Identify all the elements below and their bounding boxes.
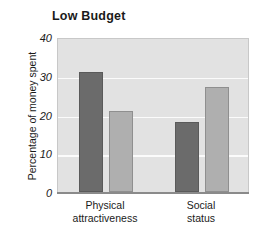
chart-title: Low Budget [52, 9, 126, 23]
y-axis-tick-labels: 010203040 [18, 0, 52, 252]
category-label-line: Social [146, 199, 256, 212]
category-label-line: attractiveness [50, 212, 160, 225]
plot-area [57, 38, 249, 193]
bar-dark-1 [175, 122, 199, 192]
bar-dark-0 [79, 72, 103, 192]
category-label-line: Physical [50, 199, 160, 212]
chart-figure: Low Budget Percentage of money spent 010… [0, 0, 271, 252]
category-label-1: Socialstatus [146, 199, 256, 224]
x-axis-line [57, 192, 249, 194]
bar-light-1 [205, 87, 229, 192]
bar-light-0 [109, 111, 133, 192]
category-label-line: status [146, 212, 256, 225]
y-tick-label: 10 [22, 148, 52, 160]
category-label-0: Physicalattractiveness [50, 199, 160, 224]
y-tick-label: 30 [22, 71, 52, 83]
y-tick-label: 40 [22, 32, 52, 44]
y-tick-label: 20 [22, 110, 52, 122]
y-tick-label: 0 [22, 187, 52, 199]
